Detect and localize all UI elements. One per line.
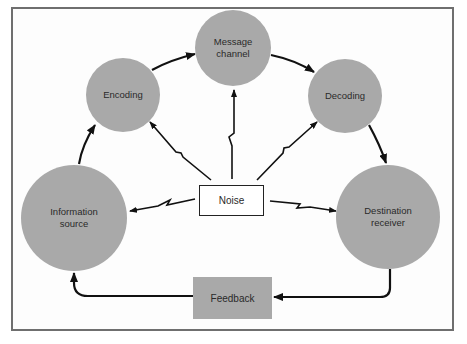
noise-box: Noise — [199, 185, 264, 216]
node-information-source: Information source — [21, 165, 127, 271]
noise-arrow-to-decoding — [257, 122, 317, 180]
node-message-channel-label: Message channel — [214, 36, 253, 60]
node-decoding-label: Decoding — [325, 90, 365, 102]
noise-label: Noise — [219, 195, 245, 206]
arrow-channel-to-decoding — [271, 55, 314, 72]
diagram-canvas: Information source Encoding Message chan… — [0, 0, 467, 344]
arrow-destination-to-feedback — [274, 269, 390, 297]
node-decoding: Decoding — [308, 59, 382, 133]
arrow-source-to-encoding — [79, 125, 95, 164]
arrow-feedback-to-source — [74, 273, 193, 296]
node-encoding: Encoding — [86, 58, 160, 132]
feedback-label: Feedback — [211, 293, 255, 304]
node-destination-receiver-label: Destination receiver — [364, 205, 412, 229]
node-message-channel: Message channel — [195, 10, 271, 86]
node-encoding-label: Encoding — [103, 89, 143, 101]
noise-arrow-to-channel — [229, 90, 234, 179]
arrow-decoding-to-destination — [369, 125, 386, 163]
node-destination-receiver: Destination receiver — [336, 165, 440, 269]
arrow-encoding-to-channel — [152, 54, 195, 70]
noise-arrow-to-source — [130, 199, 195, 211]
noise-arrow-to-destination — [270, 201, 336, 211]
noise-arrow-to-encoding — [150, 122, 211, 180]
node-information-source-label: Information source — [50, 206, 98, 230]
feedback-box: Feedback — [193, 277, 272, 319]
